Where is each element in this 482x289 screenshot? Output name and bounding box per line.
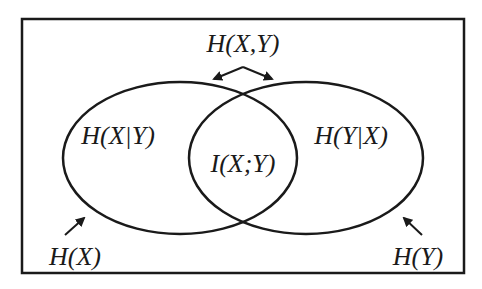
arrow-hx-icon [65, 218, 84, 235]
mutual-information-label: I(X;Y) [210, 149, 276, 178]
arrow-left-icon [214, 67, 243, 79]
arrow-hy-icon [404, 218, 422, 235]
arrow-right-icon [243, 67, 272, 79]
entropy-x-label: H(X) [48, 242, 101, 271]
conditional-y-given-x-label: H(Y|X) [313, 121, 388, 150]
entropy-y-label: H(Y) [392, 242, 444, 271]
venn-diagram: H(X,Y) H(X|Y) I(X;Y) H(Y|X) H(X) H(Y) [0, 0, 482, 289]
conditional-x-given-y-label: H(X|Y) [80, 121, 155, 150]
joint-entropy-label: H(X,Y) [206, 29, 280, 58]
